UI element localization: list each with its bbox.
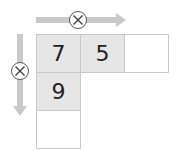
down-arrow-icon [13,106,27,116]
cell-r1c3[interactable] [124,34,169,73]
cell-r1c1: 7 [36,34,81,73]
multiply-icon [11,62,29,80]
cell-r2c1: 9 [36,72,81,111]
multiply-icon [69,11,87,29]
right-arrow-icon [116,13,126,27]
cell-r1c2: 5 [80,34,125,73]
cell-r3c1[interactable] [36,110,81,149]
